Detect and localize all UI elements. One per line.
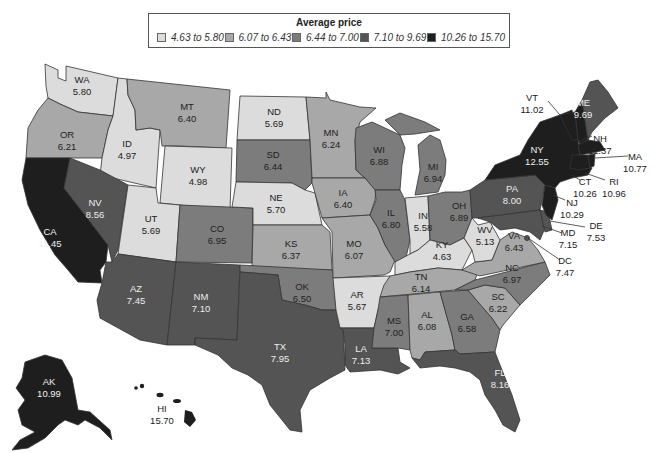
svg-text:AK: AK [43, 376, 56, 387]
label-VA: VA6.43 [505, 230, 524, 253]
svg-text:NY: NY [530, 144, 544, 155]
svg-text:RI: RI [609, 176, 619, 187]
label-ND: ND5.69 [265, 106, 284, 129]
svg-text:6.88: 6.88 [370, 156, 389, 167]
label-FL: FL8.16 [491, 367, 510, 390]
svg-text:NV: NV [88, 197, 102, 208]
label-SD: SD6.44 [264, 149, 283, 172]
svg-text:5.69: 5.69 [265, 118, 284, 129]
label-AR: AR5.67 [348, 289, 367, 312]
svg-text:8.16: 8.16 [491, 379, 510, 390]
state-IA[interactable] [312, 178, 376, 218]
label-SC: SC6.22 [489, 291, 508, 314]
label-MA: MA10.77 [623, 151, 647, 174]
svg-text:7.95: 7.95 [271, 353, 290, 364]
svg-text:7.10: 7.10 [192, 303, 211, 314]
svg-text:UT: UT [145, 213, 158, 224]
svg-text:DE: DE [589, 220, 602, 231]
label-HI: HI15.70 [150, 403, 174, 426]
state-FL[interactable] [412, 350, 520, 432]
label-NE: NE5.70 [267, 192, 286, 215]
svg-text:6.94: 6.94 [424, 173, 443, 184]
svg-text:AZ: AZ [130, 283, 142, 294]
label-DE: DE7.53 [587, 220, 606, 243]
label-MD: MD7.15 [559, 227, 578, 250]
svg-text:6.24: 6.24 [322, 139, 341, 150]
svg-text:6.58: 6.58 [458, 323, 477, 334]
svg-text:10.29: 10.29 [560, 209, 584, 220]
svg-text:NH: NH [593, 133, 607, 144]
label-NC: NC6.97 [503, 262, 522, 285]
svg-text:6.95: 6.95 [208, 235, 227, 246]
svg-text:6.22: 6.22 [489, 303, 508, 314]
svg-text:KY: KY [436, 239, 449, 250]
svg-text:5.69: 5.69 [142, 225, 161, 236]
state-AK[interactable] [12, 355, 112, 450]
svg-text:MO: MO [346, 238, 361, 249]
label-GA: GA6.58 [458, 311, 477, 334]
svg-text:7.15: 7.15 [559, 239, 578, 250]
svg-text:8.00: 8.00 [503, 195, 522, 206]
svg-text:VA: VA [508, 230, 521, 241]
svg-text:5.80: 5.80 [73, 86, 92, 97]
leader-MA [595, 156, 628, 158]
svg-text:ND: ND [267, 106, 281, 117]
svg-text:CT: CT [579, 176, 592, 187]
svg-text:HI: HI [157, 403, 167, 414]
svg-text:IN: IN [418, 210, 428, 221]
svg-text:VT: VT [526, 92, 538, 103]
svg-text:CO: CO [210, 223, 224, 234]
svg-text:6.40: 6.40 [334, 199, 353, 210]
svg-text:6.07: 6.07 [345, 250, 364, 261]
label-DC: DC7.47 [556, 255, 575, 278]
svg-text:6.97: 6.97 [503, 274, 522, 285]
svg-text:6.14: 6.14 [412, 283, 431, 294]
svg-text:CA: CA [43, 226, 57, 237]
svg-text:MA: MA [628, 151, 643, 162]
svg-text:LA: LA [355, 343, 367, 354]
svg-text:5.13: 5.13 [476, 236, 495, 247]
svg-text:TN: TN [415, 271, 428, 282]
label-CT: CT10.26 [573, 176, 597, 199]
svg-text:MN: MN [324, 127, 339, 138]
svg-text:PA: PA [506, 183, 519, 194]
svg-text:7.47: 7.47 [556, 267, 575, 278]
label-NV: NV8.56 [86, 197, 105, 220]
svg-text:WY: WY [190, 164, 206, 175]
svg-text:7.13: 7.13 [352, 355, 371, 366]
label-MO: MO6.07 [345, 238, 364, 261]
svg-text:12.55: 12.55 [525, 156, 549, 167]
svg-text:KS: KS [285, 238, 298, 249]
svg-text:ME: ME [576, 97, 590, 108]
svg-text:GA: GA [460, 311, 474, 322]
state-CO[interactable] [176, 205, 253, 263]
state-DC[interactable] [525, 236, 530, 241]
label-ME: ME9.69 [574, 97, 593, 120]
svg-text:11.02: 11.02 [520, 104, 543, 115]
svg-text:WA: WA [75, 74, 91, 85]
label-OH: OH6.89 [450, 200, 469, 223]
svg-text:MI: MI [428, 161, 439, 172]
label-WV: WV5.13 [476, 224, 495, 247]
svg-text:6.89: 6.89 [450, 212, 469, 223]
svg-text:4.63: 4.63 [433, 251, 452, 262]
svg-text:11.37: 11.37 [588, 145, 611, 156]
svg-text:OH: OH [452, 200, 466, 211]
svg-text:10.96: 10.96 [602, 188, 626, 199]
label-OR: OR6.21 [58, 129, 77, 152]
svg-text:11.45: 11.45 [38, 238, 61, 249]
label-VT: VT11.02 [520, 92, 543, 115]
svg-text:6.50: 6.50 [293, 293, 312, 304]
svg-text:IL: IL [387, 207, 395, 218]
svg-text:9.69: 9.69 [574, 109, 593, 120]
svg-text:6.21: 6.21 [58, 141, 77, 152]
label-WY: WY4.98 [189, 164, 208, 187]
us-choropleth-map: WA5.80 OR6.21 CA11.45 ID4.97 NV8.56 MT6.… [0, 0, 655, 453]
state-CT[interactable] [570, 155, 590, 170]
svg-text:NE: NE [269, 192, 282, 203]
label-OK: OK6.50 [293, 281, 312, 304]
svg-text:WV: WV [477, 224, 493, 235]
svg-text:7.53: 7.53 [587, 232, 606, 243]
svg-text:15.70: 15.70 [150, 415, 174, 426]
svg-text:5.58: 5.58 [414, 222, 433, 233]
